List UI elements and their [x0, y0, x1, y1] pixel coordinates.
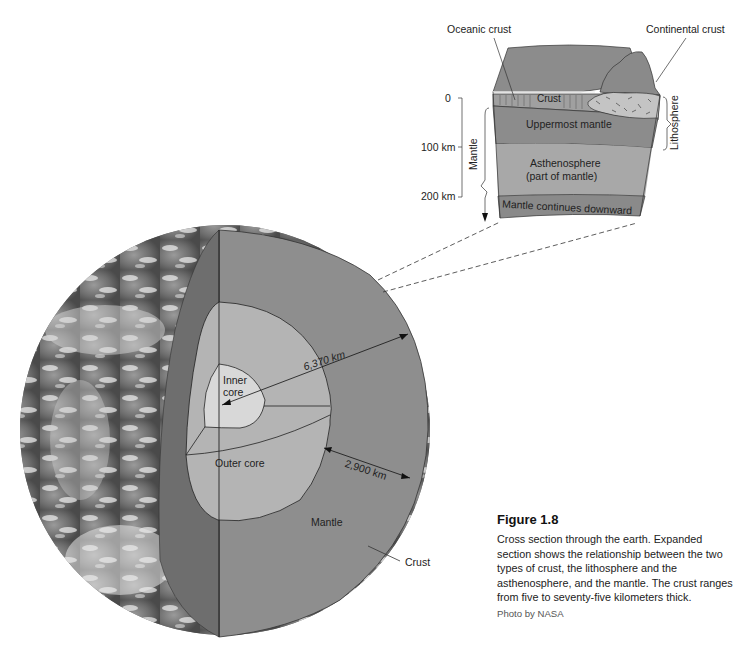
figure-caption-text: Cross section through the earth. Expande…	[497, 532, 737, 605]
depth-100km: 100 km	[421, 142, 455, 153]
depth-0: 0	[445, 93, 451, 104]
depth-200km: 200 km	[421, 191, 455, 202]
figure-caption: Figure 1.8 Cross section through the ear…	[497, 512, 737, 619]
label-mantle: Mantle	[311, 517, 343, 528]
label-asthenosphere: Asthenosphere	[530, 158, 601, 169]
label-inner-core: Inner core	[223, 374, 263, 398]
label-lithosphere: Lithosphere	[669, 95, 680, 150]
cutaway-section	[159, 227, 428, 637]
label-continental-crust: Continental crust	[646, 24, 725, 35]
label-mantle-side: Mantle	[468, 138, 479, 170]
label-outer-core: Outer core	[215, 458, 265, 469]
label-crust-band: Crust	[537, 94, 561, 104]
label-crust: Crust	[405, 557, 430, 568]
label-uppermost-mantle: Uppermost mantle	[526, 119, 612, 130]
label-oceanic-crust: Oceanic crust	[447, 24, 511, 35]
label-asthenosphere-note: (part of mantle)	[526, 171, 597, 182]
figure-title: Figure 1.8	[497, 512, 737, 527]
photo-credit: Photo by NASA	[497, 608, 737, 619]
projection-lines	[378, 222, 637, 292]
crust-block-diagram	[458, 38, 686, 222]
